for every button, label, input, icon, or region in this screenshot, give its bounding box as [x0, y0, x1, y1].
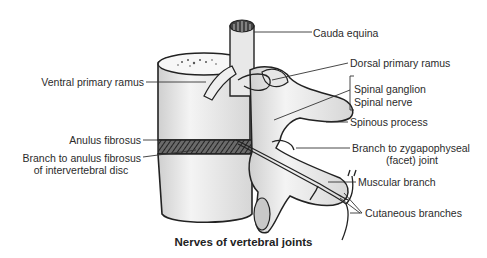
anulus-fibrosus-band	[158, 140, 252, 154]
vertebral-body-lower	[158, 154, 252, 222]
label-spinal-ganglion: Spinal ganglion	[354, 83, 426, 95]
label-branch-to-anulus-line1: Branch to anulus fibrosus	[4, 152, 141, 164]
label-spinal-nerve: Spinal nerve	[354, 96, 412, 108]
vertebral-joint-nerves-figure: Ventral primary ramus Anulus fibrosus Br…	[0, 0, 487, 258]
label-dorsal-primary-ramus: Dorsal primary ramus	[350, 57, 450, 69]
label-branch-to-anulus-line2: of intervertebral disc	[16, 164, 146, 176]
label-spinous-process: Spinous process	[350, 116, 428, 128]
label-cauda-equina: Cauda equina	[313, 27, 378, 39]
label-anulus-fibrosus: Anulus fibrosus	[4, 134, 141, 146]
figure-caption: Nerves of vertebral joints	[0, 236, 487, 248]
label-branch-to-zygapophyseal-line2: (facet) joint	[352, 154, 472, 166]
label-branch-to-zygapophyseal-line1: Branch to zygapophyseal	[352, 142, 470, 154]
vertebra-illustration	[0, 0, 487, 258]
label-cutaneous-branches: Cutaneous branches	[365, 207, 462, 219]
label-ventral-primary-ramus: Ventral primary ramus	[4, 76, 144, 88]
label-muscular-branch: Muscular branch	[358, 176, 436, 188]
